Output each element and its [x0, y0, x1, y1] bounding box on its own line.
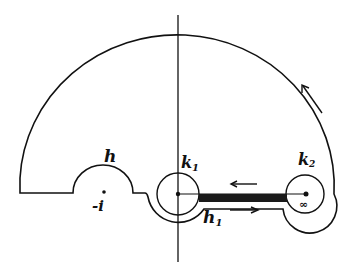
contour-diagram: h k1 k2 h1 -i ∞: [0, 0, 357, 272]
upper-cut-arrow-icon: [231, 181, 257, 187]
label-h1: h1: [203, 207, 222, 228]
minus-i-point: [102, 190, 106, 194]
label-k2: k2: [298, 150, 315, 169]
lower-cut-arrow-icon: [230, 207, 258, 213]
label-k1: k1: [181, 153, 199, 173]
label-minus-i: -i: [92, 197, 104, 215]
branch-cut-band: [199, 194, 287, 202]
label-infinity: ∞: [299, 198, 308, 211]
label-h: h: [104, 146, 116, 166]
